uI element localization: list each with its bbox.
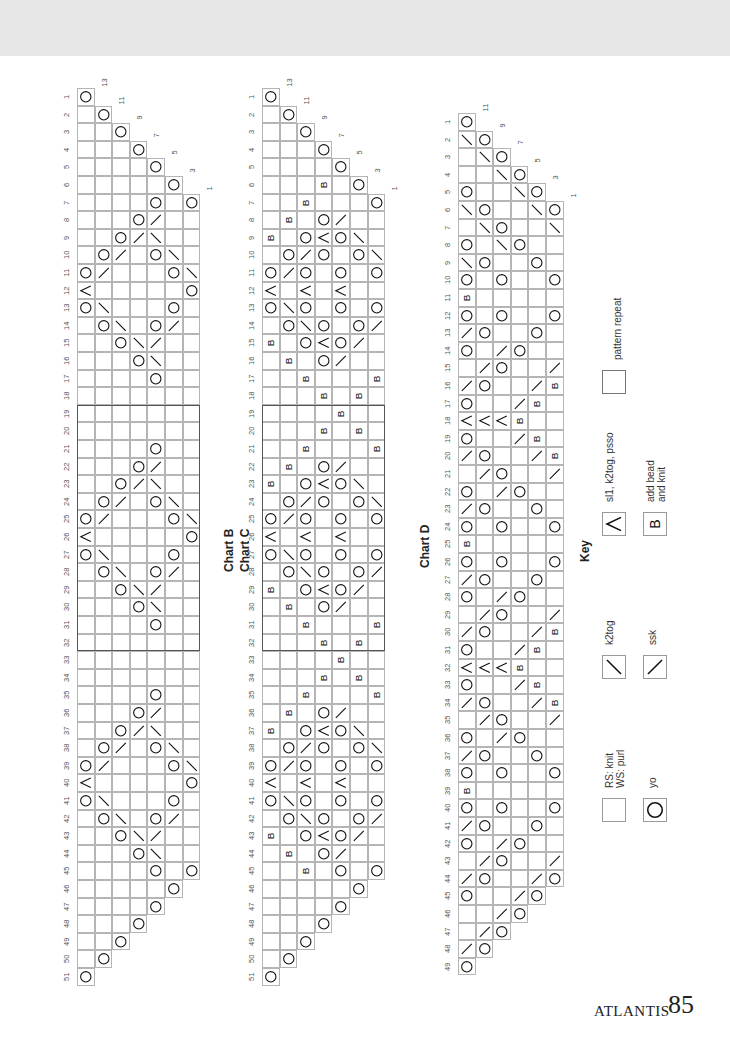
- chart-cell: [147, 158, 165, 176]
- chart-cell: B: [332, 405, 350, 423]
- chart-cell: [332, 352, 350, 370]
- chart-cell: [350, 528, 368, 546]
- chart-cell: [280, 950, 298, 968]
- stitch-count-label: 1: [390, 181, 399, 195]
- chart-cell: [77, 510, 95, 528]
- chart-cell: [183, 792, 201, 810]
- svg-text:B: B: [549, 699, 560, 706]
- row-number: 20: [58, 424, 76, 438]
- chart-cell: [493, 289, 511, 307]
- chart-cell: [528, 447, 546, 465]
- chart-cell: [280, 634, 298, 652]
- chart-cell: [165, 176, 183, 194]
- key-swatch-rs: [602, 798, 626, 822]
- chart-cell: [315, 405, 333, 423]
- chart-cell: [95, 686, 113, 704]
- chart-cell: [368, 352, 386, 370]
- chart-cell: [350, 774, 368, 792]
- chart-cell: [493, 236, 511, 254]
- svg-text:B: B: [371, 692, 382, 699]
- chart-cell: [350, 563, 368, 581]
- chart-cell: [528, 342, 546, 360]
- chart-cell: [350, 616, 368, 634]
- chart-cell: [112, 810, 130, 828]
- stitch-count-label: 1: [568, 189, 577, 203]
- chart-cell: [350, 845, 368, 863]
- chart-cell: [315, 510, 333, 528]
- chart-cell: [77, 651, 95, 669]
- chart-cell: [280, 757, 298, 775]
- chart-cell: [280, 493, 298, 511]
- chart-cell: [165, 634, 183, 652]
- chart-cell: [511, 835, 529, 853]
- chart-cell: [165, 528, 183, 546]
- chart-cell: [332, 264, 350, 282]
- chart-cell: [368, 282, 386, 300]
- footer-book-title: ATLANTIS: [594, 1003, 670, 1020]
- row-number: 3: [439, 150, 457, 164]
- chart-cell: [332, 616, 350, 634]
- chart-cell: [280, 669, 298, 687]
- chart-cell: [546, 219, 564, 237]
- chart-cell: [183, 493, 201, 511]
- chart-cell: [350, 757, 368, 775]
- chart-cell: [528, 359, 546, 377]
- row-number: 32: [439, 660, 457, 674]
- chart-cell: [95, 387, 113, 405]
- chart-cell: [476, 201, 494, 219]
- row-number: 34: [243, 671, 261, 685]
- chart-cell: [315, 370, 333, 388]
- chart-cell: [528, 659, 546, 677]
- chart-cell: [95, 634, 113, 652]
- row-number: 32: [58, 635, 76, 649]
- chart-cell: [77, 581, 95, 599]
- chart-cell: [528, 887, 546, 905]
- svg-text:B: B: [318, 639, 329, 646]
- chart-cell: [165, 739, 183, 757]
- svg-text:B: B: [647, 519, 663, 528]
- chart-cell: [112, 546, 130, 564]
- row-number: 50: [243, 952, 261, 966]
- chart-cell: [511, 201, 529, 219]
- chart-cell: [476, 571, 494, 589]
- chart-cell: [458, 571, 476, 589]
- chart-cell: [183, 405, 201, 423]
- chart-cell: [511, 359, 529, 377]
- chart-cell: [476, 535, 494, 553]
- row-number: 15: [58, 336, 76, 350]
- chart-cell: [262, 528, 280, 546]
- chart-cell: [476, 359, 494, 377]
- svg-text:B: B: [532, 681, 543, 688]
- chart-cell: [350, 264, 368, 282]
- chart-cell: [511, 307, 529, 325]
- chart-cell: [165, 334, 183, 352]
- chart-cell: [546, 412, 564, 430]
- chart-cell: [476, 183, 494, 201]
- chart-cell: [147, 211, 165, 229]
- chart-cell: [262, 317, 280, 335]
- chart-cell: [458, 764, 476, 782]
- chart-cell: [95, 810, 113, 828]
- svg-text:B: B: [461, 541, 472, 548]
- chart-cell: [165, 598, 183, 616]
- chart-cell: [493, 729, 511, 747]
- chart-cell: [147, 229, 165, 247]
- chart-cell: [77, 634, 95, 652]
- chart-cell: [546, 711, 564, 729]
- chart-cell: [112, 581, 130, 599]
- chart-cell: [511, 641, 529, 659]
- chart-cell: [147, 563, 165, 581]
- chart-cell: [165, 352, 183, 370]
- chart-cell: [350, 862, 368, 880]
- chart-cell: [332, 845, 350, 863]
- row-number: 28: [439, 590, 457, 604]
- chart-cell: [262, 176, 280, 194]
- chart-cell: [77, 334, 95, 352]
- chart-cell: B: [280, 458, 298, 476]
- chart-cell: [280, 810, 298, 828]
- chart-cell: [280, 915, 298, 933]
- row-number: 23: [439, 502, 457, 516]
- row-number: 46: [243, 882, 261, 896]
- svg-text:B: B: [265, 234, 276, 241]
- chart-cell: [458, 113, 476, 131]
